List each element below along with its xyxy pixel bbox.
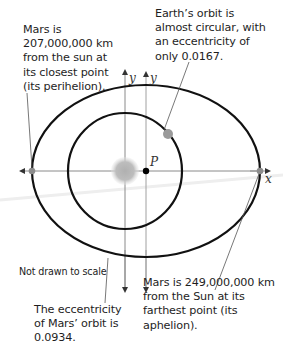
perihelion-line-4: its closest point	[23, 66, 113, 80]
earth-orbit-annotation: Earth’s orbit is almost circular, with a…	[155, 7, 266, 64]
perihelion-annotation: Mars is 207,000,000 km from the sun at i…	[23, 23, 113, 94]
mars-eccentricity-annotation: The eccentricity of Mars’ orbit is 0.093…	[34, 303, 121, 346]
perihelion-line-5: (its perihelion).	[23, 80, 113, 94]
aphelion-leader	[215, 174, 259, 290]
not-to-scale-note: Not drawn to scale	[19, 266, 106, 278]
perihelion-line-2: 207,000,000 km	[23, 37, 113, 51]
perihelion-point	[29, 168, 36, 175]
aphelion-annotation: Mars is 249,000,000 km from the Sun at i…	[143, 276, 275, 333]
earth-line-1: Earth’s orbit is	[155, 7, 266, 21]
earth-line-3: an eccentricity of	[155, 35, 266, 49]
earth-line-4: only 0.0167.	[155, 50, 266, 64]
earth-orbit-leader	[164, 62, 189, 130]
perihelion-line-1: Mars is	[23, 23, 113, 37]
mars-ecc-line-3: 0.0934.	[34, 331, 121, 345]
center-point-label: P	[149, 155, 159, 169]
mars-eccentricity-leader	[105, 258, 108, 303]
mars-ecc-line-2: of Mars’ orbit is	[34, 317, 121, 331]
aphelion-line-4: aphelion).	[143, 319, 275, 333]
y-axis-center-label: y	[149, 71, 157, 85]
perihelion-line-3: from the sun at	[23, 51, 113, 65]
earth-line-2: almost circular, with	[155, 21, 266, 35]
aphelion-point	[257, 168, 264, 175]
earth-planet-icon	[163, 129, 173, 139]
center-point-p	[143, 168, 149, 174]
perihelion-leader	[27, 93, 32, 168]
x-axis-label: x	[265, 172, 272, 186]
background-streak	[0, 175, 283, 200]
y-axis-sun-label: y	[128, 71, 136, 85]
aphelion-line-3: farthest point (its	[143, 304, 275, 318]
aphelion-line-2: from the Sun at its	[143, 290, 275, 304]
sun-icon	[111, 157, 139, 185]
mars-ecc-line-1: The eccentricity	[34, 303, 121, 317]
aphelion-line-1: Mars is 249,000,000 km	[143, 276, 275, 290]
